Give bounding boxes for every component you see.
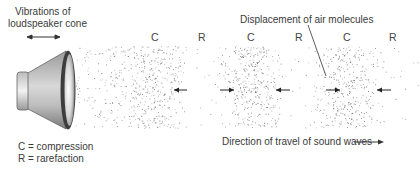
- displacement-label: Displacement of air molecules: [240, 14, 373, 26]
- displacement-leader-line: [308, 25, 326, 76]
- vibration-double-arrow-icon: [27, 35, 60, 39]
- legend-compression: C = compression: [18, 141, 93, 153]
- vibrations-label-line1: Vibrations of: [15, 6, 70, 18]
- zone-label: R: [198, 31, 206, 43]
- zone-label: C: [343, 31, 351, 43]
- molecule-displacement-arrows: [174, 88, 391, 93]
- air-molecules-stipple: [76, 46, 419, 129]
- zone-label: C: [247, 31, 255, 43]
- legend-rarefaction: R = rarefaction: [18, 153, 84, 165]
- zone-label: R: [295, 31, 303, 43]
- vibrations-label-line2: loudspeaker cone: [8, 18, 87, 30]
- zone-label: R: [389, 31, 397, 43]
- zone-label: C: [151, 31, 159, 43]
- loudspeaker-icon: [17, 51, 76, 130]
- direction-label: Direction of travel of sound waves: [222, 136, 372, 148]
